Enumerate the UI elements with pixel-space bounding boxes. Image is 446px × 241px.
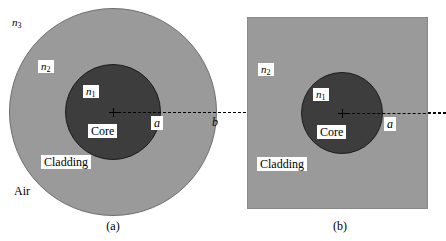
refractive-index-n1-label-b: n1 xyxy=(313,88,329,101)
optical-axis-line-b xyxy=(342,113,446,114)
n1-subscript-b: 1 xyxy=(322,93,326,102)
refractive-index-n2-label-b: n2 xyxy=(258,63,274,76)
core-label-b: Core xyxy=(317,125,346,139)
fiber-cross-section-figure: n3 n2 n1 Core Cladding Air a b (a) n2 n1… xyxy=(0,0,446,241)
n1-symbol-b: n xyxy=(316,88,322,100)
core-radius-a-label-b: a xyxy=(384,117,396,131)
panel-b: n2 n1 Core Cladding a (b) xyxy=(0,0,446,241)
center-cross-b xyxy=(338,109,347,118)
n2-symbol-b: n xyxy=(261,63,267,75)
caption-b: (b) xyxy=(325,219,355,234)
cladding-label-b: Cladding xyxy=(257,157,307,171)
n2-subscript-b: 2 xyxy=(267,68,271,77)
